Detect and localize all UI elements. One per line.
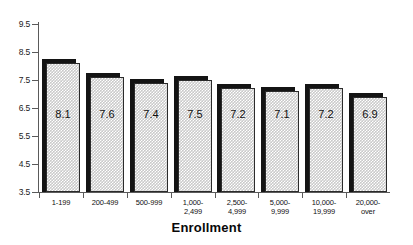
x-axis-tick: [39, 193, 40, 198]
y-axis-tick-label-text: 4.5: [8, 160, 30, 169]
y-axis-tick: [32, 136, 39, 137]
bar-face: 8.1: [46, 63, 80, 192]
y-axis-tick-label-text: 6.5: [8, 104, 30, 113]
bar-face: 6.9: [353, 97, 387, 192]
y-axis-tick-label-text: 7.5: [8, 76, 30, 85]
y-axis-tick-label-text: 9.5: [8, 20, 30, 29]
y-axis-tick: [32, 108, 39, 109]
x-axis-line: [38, 192, 390, 193]
y-axis-tick-label: 7.5: [4, 76, 30, 85]
bar-value-label: 8.1: [47, 108, 79, 120]
x-axis-title: Enrollment: [0, 220, 413, 235]
y-axis-tick: [32, 24, 39, 25]
y-axis-tick-label: 9.5: [4, 20, 30, 29]
bar-face: 7.5: [178, 80, 212, 192]
y-axis-tick-label-text: 8.5: [8, 48, 30, 57]
x-axis-tick: [215, 193, 216, 198]
bar: 7.6: [86, 73, 124, 192]
bar-value-label: 7.2: [222, 108, 254, 120]
y-axis-tick: [32, 80, 39, 81]
x-axis-tick: [346, 193, 347, 198]
y-axis-tick-label-text: 5.5: [8, 132, 30, 141]
bar-value-label: 7.4: [135, 108, 167, 120]
bar-face: 7.2: [309, 88, 343, 192]
bar-face: 7.1: [265, 91, 299, 192]
x-axis-tick: [258, 193, 259, 198]
plot-area: 9.58.57.56.55.54.53.5 8.17.67.47.57.27.1…: [0, 0, 413, 245]
bar: 7.2: [217, 84, 255, 192]
y-axis-tick-label-text: 3.5: [8, 188, 30, 197]
y-axis-tick-label: 3.5: [4, 188, 30, 197]
x-axis-tick: [127, 193, 128, 198]
y-axis-tick-label: 5.5: [4, 132, 30, 141]
bar: 7.2: [305, 84, 343, 192]
bar-face: 7.4: [134, 83, 168, 192]
bar-face: 7.2: [221, 88, 255, 192]
bar-value-label: 7.1: [266, 108, 298, 120]
x-axis-category-label: 20,000- over: [342, 199, 394, 216]
bar-face: 7.6: [90, 77, 124, 192]
y-axis-tick-label: 8.5: [4, 48, 30, 57]
y-axis-tick: [32, 52, 39, 53]
bar: 6.9: [349, 93, 387, 192]
bar-value-label: 7.6: [91, 108, 123, 120]
x-axis-tick: [171, 193, 172, 198]
y-axis-tick: [32, 192, 39, 193]
bar: 7.4: [130, 79, 168, 192]
bar: 7.1: [261, 87, 299, 192]
bar: 8.1: [42, 59, 80, 192]
bar-value-label: 7.2: [310, 108, 342, 120]
bar-value-label: 7.5: [179, 108, 211, 120]
y-axis-tick: [32, 164, 39, 165]
bar: 7.5: [174, 76, 212, 192]
y-axis-tick-label: 4.5: [4, 160, 30, 169]
bar-chart: 9.58.57.56.55.54.53.5 8.17.67.47.57.27.1…: [0, 0, 413, 245]
bar-value-label: 6.9: [354, 108, 386, 120]
y-axis-tick-label: 6.5: [4, 104, 30, 113]
x-axis-tick: [302, 193, 303, 198]
x-axis-tick: [83, 193, 84, 198]
